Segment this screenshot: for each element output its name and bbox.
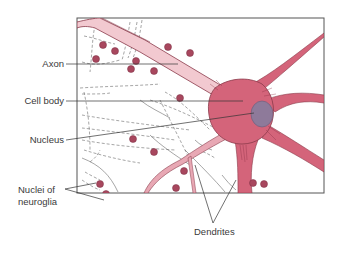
label-nuclei-of-neuroglia-line2: neuroglia bbox=[18, 196, 57, 208]
neuron-diagram: Axon Cell body Nucleus Nuclei of neurogl… bbox=[0, 0, 352, 254]
label-dendrites: Dendrites bbox=[194, 226, 235, 238]
label-cell-body: Cell body bbox=[4, 95, 64, 107]
neuron-illustration bbox=[0, 0, 352, 254]
label-nucleus: Nucleus bbox=[4, 134, 64, 146]
label-axon: Axon bbox=[20, 58, 64, 70]
label-nuclei-of-neuroglia-line1: Nuclei of bbox=[18, 184, 55, 196]
nucleus bbox=[251, 101, 273, 127]
